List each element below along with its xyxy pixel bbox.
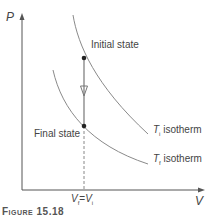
final-state-dot xyxy=(82,124,87,129)
pv-diagram xyxy=(0,0,214,221)
volume-equality-label: Vf=Vi xyxy=(71,193,93,206)
upper-isotherm-label: Ti isotherm xyxy=(153,124,202,137)
initial-state-label: Initial state xyxy=(91,39,139,50)
lower-isotherm-curve xyxy=(53,70,148,164)
lower-isotherm-label: Tf isotherm xyxy=(153,153,202,166)
p-axis-arrow-icon xyxy=(20,13,25,20)
figure-caption: Figure 15.18 xyxy=(2,206,64,217)
initial-state-dot xyxy=(82,56,87,61)
p-axis-label: P xyxy=(6,10,14,24)
v-axis-label: V xyxy=(195,194,203,208)
final-state-label: Final state xyxy=(34,128,80,139)
v-axis-arrow-icon xyxy=(198,188,205,193)
